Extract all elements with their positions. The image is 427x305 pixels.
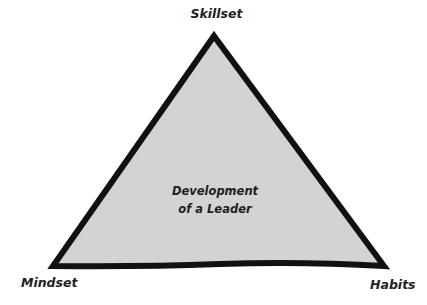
vertex-label-mindset: Mindset (21, 275, 77, 290)
vertex-label-skillset: Skillset (0, 6, 427, 21)
center-caption-line2: of a Leader (160, 200, 270, 218)
triangle-outline (53, 36, 384, 266)
center-caption: Development of a Leader (160, 182, 270, 218)
triangle-shape (0, 0, 427, 305)
skillset-text: Skillset (190, 6, 242, 21)
leadership-triangle-diagram: Skillset Mindset Habits Development of a… (0, 0, 427, 305)
center-caption-line1: Development (160, 182, 270, 200)
vertex-label-habits: Habits (370, 277, 416, 292)
